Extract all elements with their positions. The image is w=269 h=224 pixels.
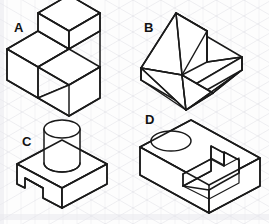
drawing-sheet: A xyxy=(0,0,269,224)
figure-b-label: B xyxy=(144,20,153,35)
figure-b-wedge-block[interactable]: B xyxy=(141,13,242,110)
figure-a-label: A xyxy=(14,20,24,35)
figure-c-cylinder-top-ellipse xyxy=(44,120,80,138)
paper-band-bottom xyxy=(0,214,269,220)
paper-band-mid xyxy=(0,0,4,224)
figure-d-top-hole xyxy=(151,131,191,151)
figure-d-label: D xyxy=(145,112,154,127)
figure-c-cylinder-block[interactable]: C xyxy=(17,120,107,208)
figure-c-label: C xyxy=(22,134,32,149)
isometric-drawing-canvas: A xyxy=(0,0,269,224)
